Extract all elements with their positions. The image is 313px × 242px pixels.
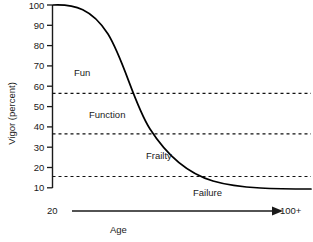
y-tick-label-100: 100 xyxy=(22,1,44,11)
y-tick-label-30: 30 xyxy=(22,143,44,153)
y-axis-title: Vigor (percent) xyxy=(6,59,17,169)
x-axis-title: Age xyxy=(110,224,127,235)
y-tick-label-70: 70 xyxy=(22,61,44,71)
zone-label-failure: Failure xyxy=(193,188,222,198)
zone-label-function: Function xyxy=(89,110,125,120)
vigor-vs-age-chart: 100 90 80 70 60 50 40 30 20 10 Vigor (pe… xyxy=(0,0,313,242)
y-tick-label-20: 20 xyxy=(22,163,44,173)
y-tick-label-90: 90 xyxy=(22,21,44,31)
x-axis-end-label: 100+ xyxy=(280,205,301,216)
x-axis-start-label: 20 xyxy=(47,205,58,216)
y-axis-ticks xyxy=(47,5,53,188)
vigor-decline-curve xyxy=(53,5,311,189)
y-tick-label-60: 60 xyxy=(22,82,44,92)
y-tick-label-10: 10 xyxy=(22,183,44,193)
y-tick-label-50: 50 xyxy=(22,102,44,112)
zone-label-fun: Fun xyxy=(74,68,90,78)
y-tick-label-40: 40 xyxy=(22,122,44,132)
zone-label-frailty: Frailty xyxy=(146,151,172,161)
y-tick-label-80: 80 xyxy=(22,41,44,51)
